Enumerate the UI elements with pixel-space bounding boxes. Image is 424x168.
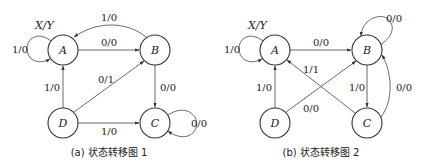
edge-label: 0/0 [313, 37, 329, 48]
state-label: B [362, 44, 371, 57]
state-label: B [150, 44, 159, 57]
edge-label: 0/1 [98, 74, 114, 85]
edge-a-A-A [27, 36, 51, 62]
edge-label: 1/0 [12, 44, 28, 55]
edge-label: 1/1 [303, 64, 319, 75]
edge-label: 1/0 [101, 126, 117, 137]
edge-label: 0/0 [386, 13, 402, 24]
edge-label: 0/0 [160, 82, 176, 93]
edge-label: 1/0 [349, 82, 365, 93]
state-label: D [270, 117, 280, 130]
state-diagrams-canvas: A B C D X/Y 1/0 0/0 1/0 0/0 0/0 1/0 0/1 … [0, 0, 424, 168]
state-label: A [270, 44, 279, 57]
state-label: A [58, 44, 67, 57]
caption: (b) 状态转移图 2 [283, 146, 360, 158]
io-legend: X/Y [247, 19, 269, 32]
edge-b-A-A [239, 36, 263, 62]
state-label: C [363, 117, 372, 130]
io-legend: X/Y [34, 19, 56, 32]
edge-label: 0/0 [396, 82, 412, 93]
edge-a-B-A [74, 25, 146, 37]
edge-label: 0/0 [303, 103, 319, 114]
edge-label: 1/0 [44, 82, 60, 93]
edge-label: 0/0 [191, 118, 207, 129]
state-label: D [58, 117, 68, 130]
edge-a-D-B [74, 61, 144, 112]
edge-b-D-B [286, 61, 356, 112]
state-diagram-b: A B C D X/Y 1/0 0/0 0/0 1/0 1/1 0/0 1/0 … [224, 13, 412, 158]
edge-label: 0/0 [101, 37, 117, 48]
state-label: C [151, 117, 160, 130]
edge-label: 1/0 [224, 44, 240, 55]
state-diagram-a: A B C D X/Y 1/0 0/0 1/0 0/0 0/0 1/0 0/1 … [12, 12, 207, 158]
edge-label: 1/0 [256, 82, 272, 93]
edge-b-C-B [381, 55, 390, 117]
edge-label: 1/0 [101, 12, 117, 23]
caption: (a) 状态转移图 1 [71, 146, 148, 158]
